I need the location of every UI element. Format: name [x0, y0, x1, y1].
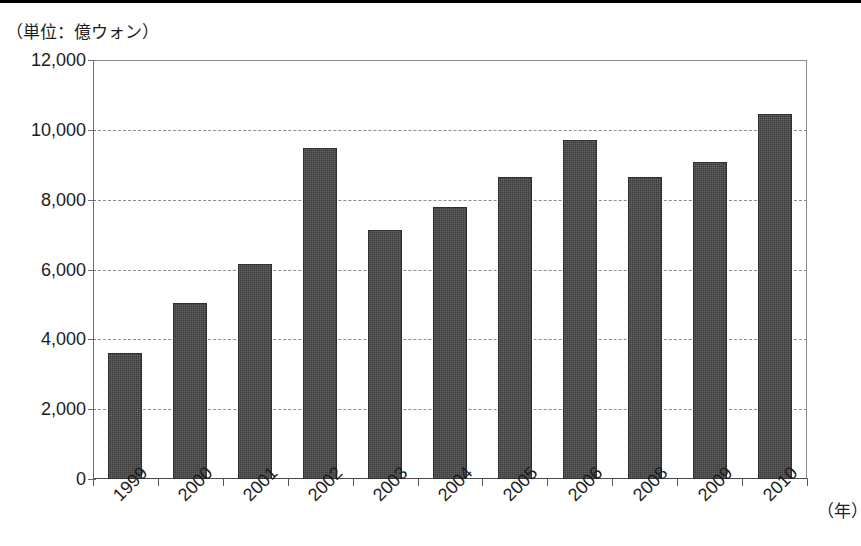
y-axis-tick-label: 12,000 — [31, 50, 86, 71]
y-axis-unit-caption: （単位：億ウォン） — [6, 18, 159, 43]
x-axis-tick — [807, 478, 808, 486]
page-top-rule — [0, 0, 861, 3]
bar — [563, 140, 597, 479]
bar — [238, 264, 272, 479]
x-axis-tick — [612, 478, 613, 486]
x-axis-tick — [93, 478, 94, 486]
bar — [108, 353, 142, 479]
gridline — [93, 130, 807, 131]
y-axis-tick — [88, 60, 96, 61]
x-axis-tick — [677, 478, 678, 486]
y-axis-tick-label: 8,000 — [41, 189, 86, 210]
bar — [368, 230, 402, 479]
x-axis-tick — [288, 478, 289, 486]
y-axis-tick — [88, 479, 96, 480]
y-axis-tick — [88, 409, 96, 410]
x-axis-tick — [223, 478, 224, 486]
y-axis-tick — [88, 200, 96, 201]
y-axis-tick-label: 2,000 — [41, 399, 86, 420]
x-axis-tick — [547, 478, 548, 486]
bar — [498, 177, 532, 479]
bar — [628, 177, 662, 479]
bar — [433, 207, 467, 479]
y-axis-tick — [88, 270, 96, 271]
y-axis-tick-label: 6,000 — [41, 259, 86, 280]
plot-top-border — [93, 60, 807, 61]
chart-figure: （単位：億ウォン） 02,0004,0006,0008,00010,00012,… — [0, 0, 861, 546]
bar — [758, 114, 792, 479]
x-axis-tick — [418, 478, 419, 486]
plot-area — [93, 60, 807, 479]
y-axis-tick — [88, 130, 96, 131]
x-axis-tick — [353, 478, 354, 486]
x-axis-tick — [742, 478, 743, 486]
bar — [173, 303, 207, 479]
y-axis-tick — [88, 339, 96, 340]
x-axis-title: （年） — [817, 497, 861, 522]
x-axis-tick — [482, 478, 483, 486]
y-axis-tick-label: 10,000 — [31, 119, 86, 140]
y-axis-tick-label: 0 — [76, 469, 86, 490]
x-axis-tick — [158, 478, 159, 486]
bar — [693, 162, 727, 479]
bar — [303, 148, 337, 479]
y-axis-tick-label: 4,000 — [41, 329, 86, 350]
